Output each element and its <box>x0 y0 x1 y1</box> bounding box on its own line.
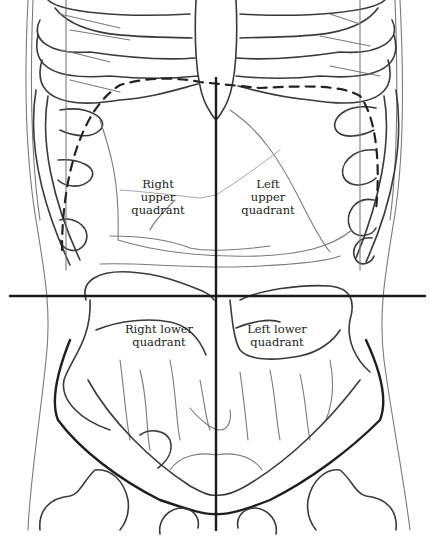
label-line: quadrant <box>228 204 308 217</box>
label-left-lower-quadrant: Left lower quadrant <box>234 323 320 349</box>
label-line: quadrant <box>112 336 206 349</box>
label-right-upper-quadrant: Right upper quadrant <box>118 178 198 217</box>
label-left-upper-quadrant: Left upper quadrant <box>228 178 308 217</box>
abdominal-quadrants-diagram: Right upper quadrant Left upper quadrant… <box>0 0 437 548</box>
anatomy-illustration <box>0 0 437 548</box>
label-line: quadrant <box>234 336 320 349</box>
pelvis <box>40 340 396 534</box>
label-line: quadrant <box>118 204 198 217</box>
label-right-lower-quadrant: Right lower quadrant <box>112 323 206 349</box>
diaphragm-dashed-line <box>62 79 378 250</box>
body-outline <box>26 0 410 530</box>
